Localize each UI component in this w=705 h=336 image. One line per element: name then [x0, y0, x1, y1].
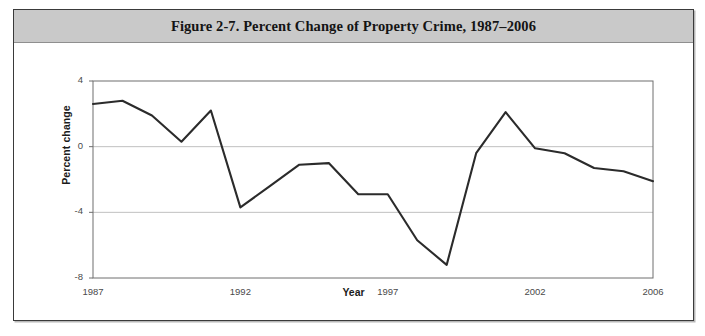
line-chart-svg: [14, 43, 693, 320]
figure-title-banner: Figure 2-7. Percent Change of Property C…: [14, 10, 693, 43]
y-tick-label: -4: [57, 205, 83, 216]
x-tick-label: 2002: [515, 286, 555, 297]
scanned-page: Figure 2-7. Percent Change of Property C…: [0, 0, 705, 336]
y-tick-label: 0: [57, 140, 83, 151]
y-tick-marks: [89, 81, 93, 278]
y-tick-label: 4: [57, 74, 83, 85]
page-title: Figure 2-7. Percent Change of Property C…: [171, 18, 536, 35]
x-tick-label: 2006: [633, 286, 673, 297]
figure-container: Figure 2-7. Percent Change of Property C…: [13, 9, 694, 321]
x-axis-label: Year: [14, 286, 693, 298]
x-tick-label: 1987: [73, 286, 113, 297]
chart-area: Percent change Year 40-4-8 1987199219972…: [14, 43, 693, 320]
x-tick-label: 1997: [368, 286, 408, 297]
y-tick-label: -8: [57, 271, 83, 282]
x-tick-label: 1992: [220, 286, 260, 297]
plot-background: [93, 81, 653, 278]
